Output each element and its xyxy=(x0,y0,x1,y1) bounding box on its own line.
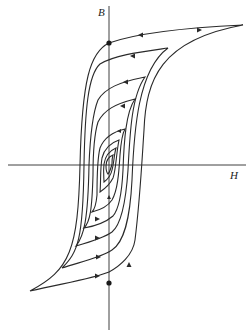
remanence-dot-lower xyxy=(106,280,111,285)
direction-arrows xyxy=(95,28,202,279)
x-axis-label: H xyxy=(230,169,238,181)
loop-4 xyxy=(84,99,135,228)
arrow-right-icon xyxy=(95,236,100,241)
arrow-up-icon xyxy=(107,195,111,199)
loop-3 xyxy=(76,77,145,246)
arrow-left-icon xyxy=(123,80,128,85)
major-loop xyxy=(30,25,243,291)
hysteresis-diagram xyxy=(0,0,251,334)
loop-2 xyxy=(62,48,168,268)
arrow-up-icon xyxy=(127,262,132,267)
remanence-dot-upper xyxy=(106,40,111,45)
arrow-right-icon xyxy=(95,217,100,222)
arrow-right-icon xyxy=(95,274,100,279)
arrow-left-icon xyxy=(117,129,121,133)
y-axis-label: B xyxy=(98,6,105,18)
arrow-left-icon xyxy=(138,33,143,38)
arrow-left-icon xyxy=(120,104,125,109)
